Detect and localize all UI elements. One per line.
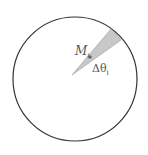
mass-label: Mi xyxy=(74,44,90,60)
circle-outline xyxy=(13,17,137,141)
sector-diagram: Mi Δθi xyxy=(0,0,148,155)
angle-label: Δθi xyxy=(92,62,110,77)
